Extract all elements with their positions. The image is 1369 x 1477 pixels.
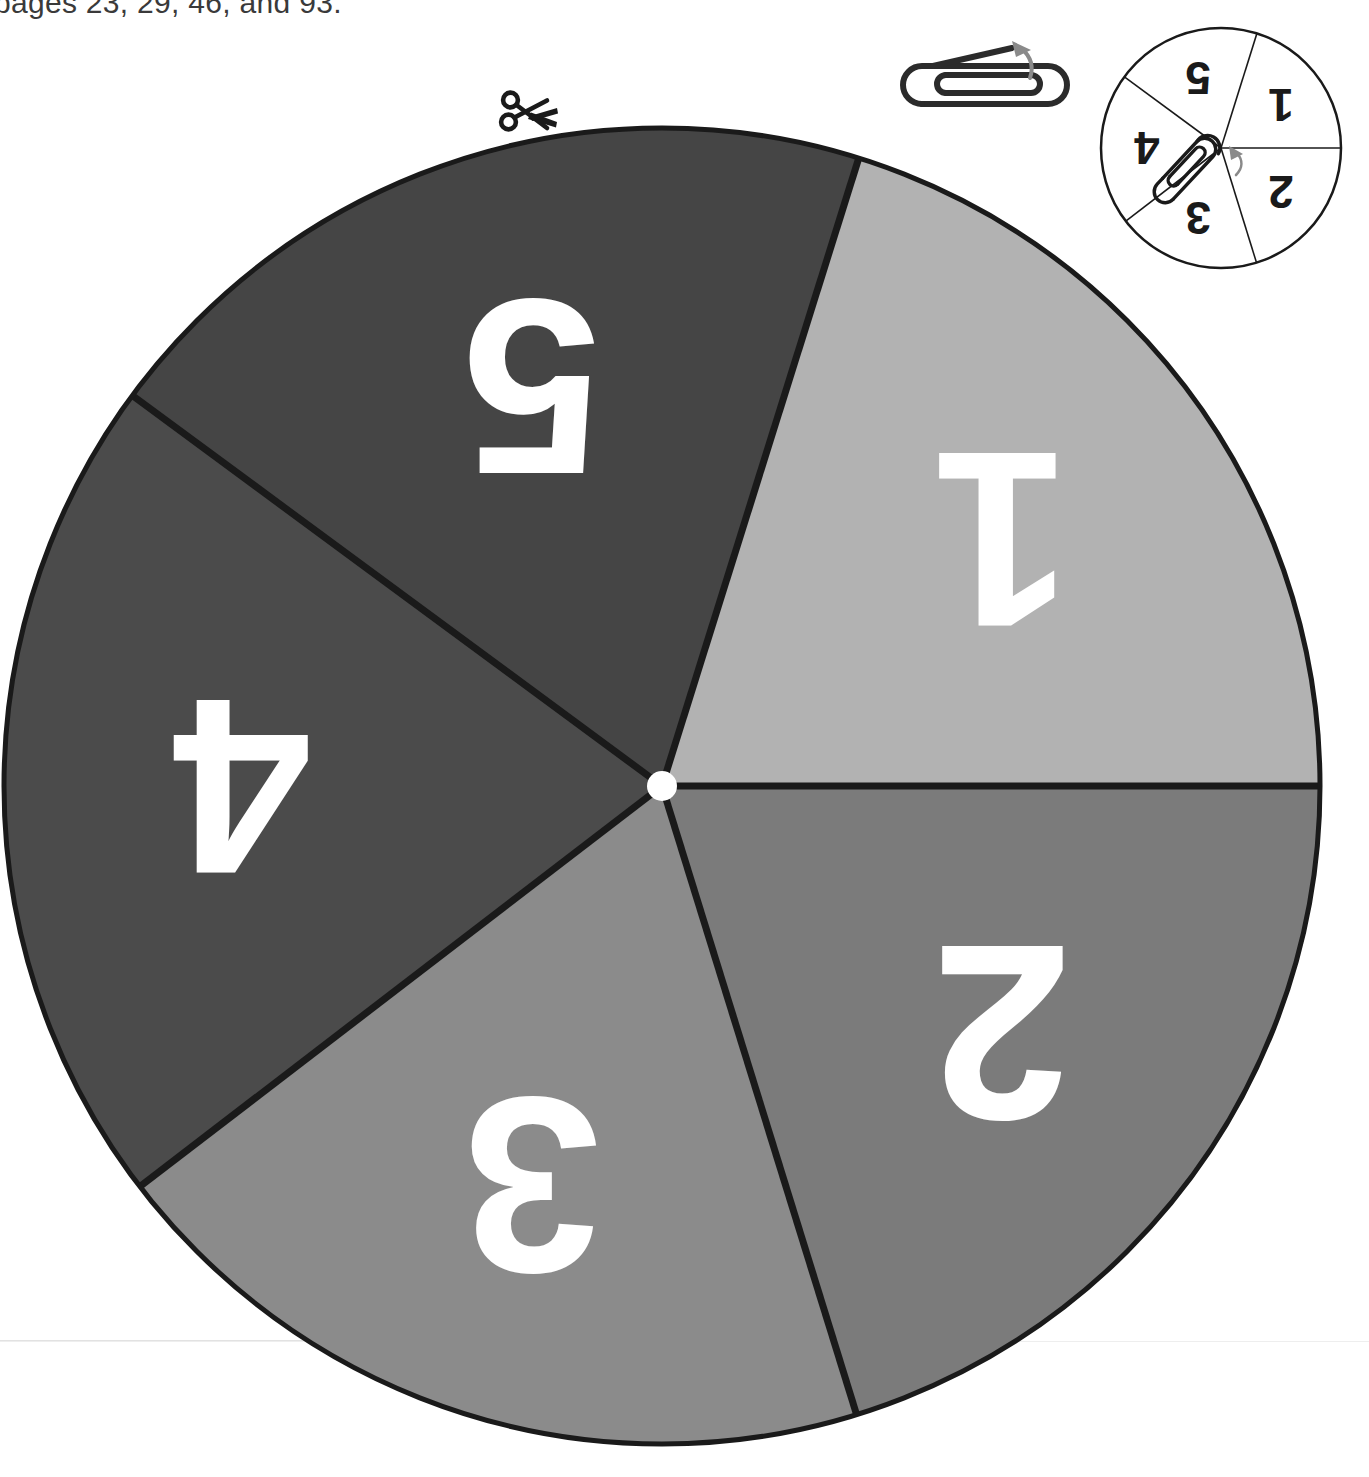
scissors-icon [495,78,565,148]
worksheet-page: pages 23, 29, 46, and 93. 12345 [0,0,1369,1477]
sector-label-3: 3 [463,1046,602,1325]
paperclip-icon [900,30,1080,140]
sector-label-4: 4 [172,647,311,926]
sector-label-3: 3 [1185,192,1211,244]
sector-label-4: 4 [1134,122,1160,174]
reference-spinner: 12345 [1093,20,1353,280]
sector-label-2: 2 [932,893,1071,1172]
sector-label-1: 1 [932,400,1071,679]
sector-label-5: 5 [1185,52,1211,104]
sector-label-5: 5 [463,247,602,526]
sector-label-2: 2 [1268,165,1294,217]
hub-dot-icon [647,771,677,801]
sector-label-1: 1 [1268,79,1294,131]
